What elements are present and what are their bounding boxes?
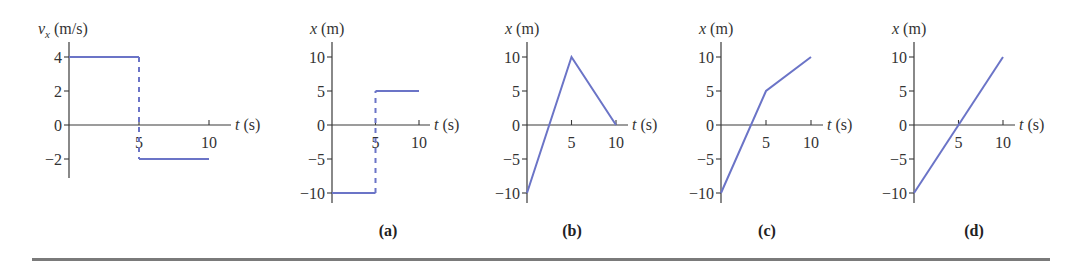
y-tick-label: −5 [308, 151, 325, 168]
y-axis-var: x [309, 20, 317, 37]
chart-d: x (m)t (s)1050−5−10510(d) [882, 20, 1044, 240]
x-axis-unit: (s) [239, 116, 260, 134]
y-tick-label: −5 [890, 151, 907, 168]
y-tick-label: 5 [512, 83, 520, 100]
y-tick-label: 0 [54, 117, 62, 134]
y-tick-label: 0 [706, 117, 714, 134]
y-tick-label: −10 [495, 185, 520, 202]
y-tick-label: 10 [891, 49, 907, 66]
y-tick-label: 10 [504, 49, 520, 66]
y-axis-unit: (m) [899, 20, 926, 38]
panel-label: (d) [964, 222, 984, 240]
y-tick-label: −5 [503, 151, 520, 168]
x-axis-title: t (s) [632, 116, 657, 134]
y-axis-var: x [504, 20, 512, 37]
y-tick-label: −10 [689, 185, 714, 202]
y-axis-title: vx (m/s) [38, 20, 88, 40]
y-tick-label: −10 [882, 185, 907, 202]
x-tick-label: 5 [955, 134, 963, 151]
x-axis-title: t (s) [827, 116, 852, 134]
chart-c: x (m)t (s)1050−5−10510(c) [689, 20, 852, 240]
x-tick-label: 10 [995, 134, 1011, 151]
y-tick-label: 4 [54, 49, 62, 66]
panel-label: (b) [562, 222, 582, 240]
y-axis-title: x (m) [891, 20, 926, 38]
x-tick-label: 5 [762, 134, 770, 151]
y-tick-label: 0 [512, 117, 520, 134]
bottom-rule [32, 258, 1050, 261]
y-tick-label: 5 [899, 83, 907, 100]
x-axis-title: t (s) [434, 116, 459, 134]
x-axis-unit: (s) [1023, 116, 1044, 134]
y-tick-label: 5 [317, 83, 325, 100]
y-axis-unit: (m) [706, 20, 733, 38]
y-tick-label: −5 [697, 151, 714, 168]
panel-label: (a) [379, 222, 398, 240]
x-tick-label: 10 [411, 134, 427, 151]
y-axis-var: x [698, 20, 706, 37]
y-axis-title: x (m) [504, 20, 539, 38]
x-axis-title: t (s) [1019, 116, 1044, 134]
y-tick-label: 0 [317, 117, 325, 134]
y-axis-title: x (m) [309, 20, 344, 38]
y-tick-label: 5 [706, 83, 714, 100]
panel-label: (c) [758, 222, 776, 240]
y-axis-title: x (m) [698, 20, 733, 38]
y-axis-unit: (m/s) [50, 20, 88, 38]
y-tick-label: −2 [45, 151, 62, 168]
y-tick-label: 10 [698, 49, 714, 66]
y-tick-label: −10 [300, 185, 325, 202]
x-tick-label: 10 [608, 134, 624, 151]
chart-b: x (m)t (s)1050−5−10510(b) [495, 20, 657, 240]
y-axis-var: x [891, 20, 899, 37]
chart-a: x (m)t (s)1050−5−10510(a) [300, 20, 459, 240]
chart-velocity: vx (m/s)t (s)420−2510 [38, 20, 260, 178]
x-tick-label: 5 [568, 134, 576, 151]
y-tick-label: 10 [309, 49, 325, 66]
x-axis-title: t (s) [235, 116, 260, 134]
x-tick-label: 10 [201, 134, 217, 151]
figure-canvas: vx (m/s)t (s)420−2510x (m)t (s)1050−5−10… [0, 0, 1081, 265]
x-axis-unit: (s) [438, 116, 459, 134]
y-axis-unit: (m) [512, 20, 539, 38]
y-tick-label: 2 [54, 83, 62, 100]
x-axis-unit: (s) [636, 116, 657, 134]
x-axis-unit: (s) [831, 116, 852, 134]
x-tick-label: 10 [803, 134, 819, 151]
y-tick-label: 0 [899, 117, 907, 134]
y-axis-unit: (m) [317, 20, 344, 38]
